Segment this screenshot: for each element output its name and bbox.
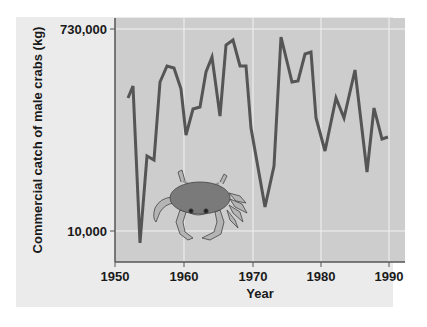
x-tick-1970: 1970 xyxy=(239,269,268,284)
y-axis-title: Commercial catch of male crabs (kg) xyxy=(30,27,45,254)
x-tick-1980: 1980 xyxy=(307,269,336,284)
x-tick-1990: 1990 xyxy=(375,269,404,284)
x-tick-1960: 1960 xyxy=(170,269,199,284)
line-chart: 730,000 10,000 1950 1960 1970 1980 1990 … xyxy=(0,0,427,327)
y-tick-top: 730,000 xyxy=(60,22,107,37)
x-tick-1950: 1950 xyxy=(101,269,130,284)
y-tick-bottom: 10,000 xyxy=(67,224,107,239)
plot-area xyxy=(115,18,405,262)
x-axis-title: Year xyxy=(246,286,273,301)
